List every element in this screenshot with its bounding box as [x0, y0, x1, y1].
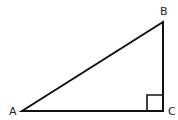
- right-angle-marker: [147, 95, 163, 111]
- vertex-label-b: B: [160, 5, 168, 18]
- vertex-label-c: C: [168, 105, 176, 118]
- triangle-abc: [22, 22, 163, 111]
- triangle-diagram: A B C: [0, 0, 178, 120]
- vertex-label-a: A: [9, 105, 17, 118]
